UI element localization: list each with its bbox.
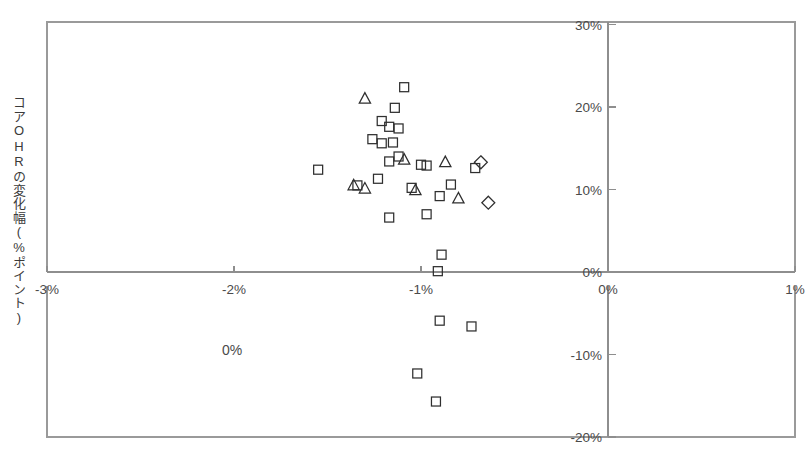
x-tick-label: 1% (785, 282, 805, 297)
y-tick-label: 10% (575, 183, 602, 198)
x-tick-label: 0% (598, 282, 618, 297)
data-point-square (400, 83, 409, 92)
axis-ticks (47, 25, 795, 438)
data-point-square (446, 180, 455, 189)
data-point-square (433, 267, 442, 276)
data-point-square (437, 250, 446, 259)
data-point-square (422, 210, 431, 219)
data-point-square (467, 322, 476, 331)
y-tick-label: 20% (575, 100, 602, 115)
y-tick-label: 30% (575, 18, 602, 33)
plot-frame (47, 22, 795, 437)
y-tick-label: -10% (570, 348, 602, 363)
data-point-square (373, 174, 382, 183)
y-axis-label-text: コアOHRの変化幅(%ポイント) (13, 96, 26, 326)
data-point-square (377, 139, 386, 148)
plot-area: 30%20%10%0%-10%-20%-3%-2%-1%0%1% 0% (0, 0, 809, 454)
data-point-triangle (359, 183, 370, 194)
stray-zero-label: 0% (222, 342, 242, 358)
data-point-square (390, 103, 399, 112)
data-point-square (431, 397, 440, 406)
axis-tick-labels: 30%20%10%0%-10%-20%-3%-2%-1%0%1% (35, 18, 805, 446)
data-point-square (385, 213, 394, 222)
data-points (314, 83, 495, 406)
data-point-triangle (399, 154, 410, 165)
data-point-square (435, 316, 444, 325)
scatter-chart: 30%20%10%0%-10%-20%-3%-2%-1%0%1% 0% コアOH… (0, 0, 809, 454)
data-point-triangle (440, 156, 451, 167)
y-axis-label: コアOHRの変化幅(%ポイント) (6, 96, 32, 366)
data-point-triangle (359, 93, 370, 104)
upper-plot-frame (47, 22, 795, 272)
x-tick-label: -2% (222, 282, 246, 297)
data-point-square (388, 138, 397, 147)
data-point-square (435, 192, 444, 201)
data-point-square (413, 369, 422, 378)
data-point-square (394, 124, 403, 133)
x-tick-label: -3% (35, 282, 59, 297)
data-point-square (368, 135, 377, 144)
data-point-square (394, 152, 403, 161)
lower-plot-frame (47, 286, 795, 437)
data-point-triangle (453, 192, 464, 203)
data-point-square (385, 157, 394, 166)
data-point-square (471, 164, 480, 173)
y-tick-label: 0% (582, 265, 602, 280)
data-point-diamond (474, 156, 487, 169)
annotations: 0% (222, 342, 242, 358)
x-tick-label: -1% (409, 282, 433, 297)
data-point-diamond (482, 196, 495, 209)
data-point-square (314, 165, 323, 174)
y-tick-label: -20% (570, 430, 602, 445)
data-point-triangle (410, 184, 421, 195)
